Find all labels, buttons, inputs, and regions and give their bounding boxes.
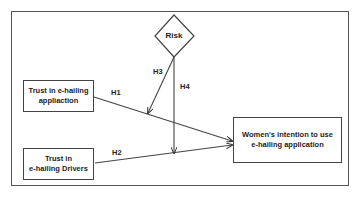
edge-label-h3: H3 (153, 67, 163, 76)
node-trust-app: Trust in e-hailing appliaction (23, 80, 94, 112)
node-trust-app-line2: appliaction (28, 96, 88, 106)
node-trust-app-line1: Trust in e-hailing (28, 86, 88, 96)
node-trust-drivers: Trust in e-hailing Drivers (23, 148, 94, 180)
edge-label-h2: H2 (112, 148, 122, 157)
node-intention-line1: Women's intention to use (242, 130, 333, 140)
risk-label: Risk (154, 31, 194, 40)
edge-h3 (148, 57, 174, 113)
node-intention-line2: e-hailing application (242, 140, 333, 150)
node-intention: Women's intention to use e-hailing appli… (233, 117, 342, 163)
edge-label-h4: H4 (180, 82, 190, 91)
node-trust-drivers-line2: e-hailing Drivers (29, 164, 88, 174)
edge-label-h1: H1 (111, 88, 121, 97)
node-trust-drivers-line1: Trust in (29, 154, 88, 164)
edge-h1 (94, 97, 232, 141)
